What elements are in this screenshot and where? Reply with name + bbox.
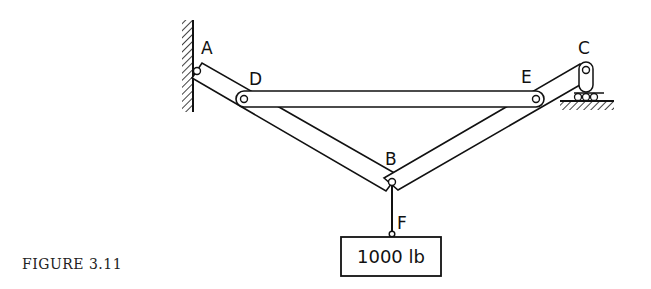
pin-c [583,67,590,74]
label-f: F [397,213,407,233]
member-bc [384,64,592,190]
pin-f [389,231,395,237]
pin-a [194,68,201,75]
label-e: E [521,67,532,87]
wall-support-a [182,20,193,112]
pin-d [241,96,248,103]
label-a: A [201,38,213,58]
pin-e [533,96,540,103]
label-c: C [578,38,590,58]
label-b: B [385,149,397,169]
member-ab [192,63,398,191]
label-d: D [249,69,262,89]
truss-diagram: 1000 lb A D E C B F [0,0,651,289]
member-de [236,91,544,107]
pin-b [389,179,396,186]
figure-caption: FIGURE 3.11 [22,256,122,272]
load-label: 1000 lb [357,246,425,267]
